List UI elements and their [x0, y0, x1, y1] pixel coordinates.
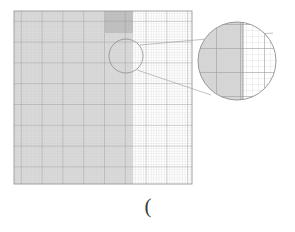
domain-box-group: [14, 11, 192, 184]
caption-paren-mark: (: [138, 192, 158, 220]
lens-major-grid: [195, 19, 281, 105]
major-grid-lines: [14, 11, 192, 184]
magnified-detail-circle: [195, 19, 281, 105]
figure-canvas: (: [0, 0, 295, 232]
